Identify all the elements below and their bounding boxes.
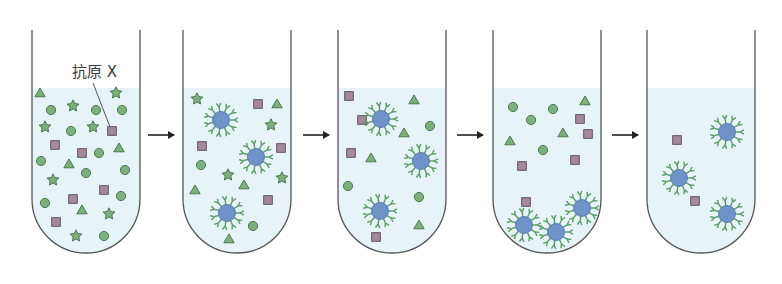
circle-molecule xyxy=(94,148,103,157)
antibody-arm xyxy=(547,218,548,222)
antigen-x-molecule xyxy=(254,100,263,109)
bead-core xyxy=(413,153,430,170)
circle-molecule xyxy=(120,165,129,174)
test-tube-3 xyxy=(338,30,446,253)
bead-core xyxy=(248,149,265,166)
antigen-x-molecule xyxy=(584,130,593,139)
antigen-x-molecule xyxy=(518,162,527,171)
bead-core xyxy=(516,217,533,234)
antibody-arm xyxy=(372,105,373,109)
circle-molecule xyxy=(343,181,352,190)
circle-molecule xyxy=(36,156,45,165)
circle-molecule xyxy=(116,191,125,200)
test-tube-5 xyxy=(647,30,755,253)
antigen-x-molecule xyxy=(52,218,61,227)
antibody-arm xyxy=(218,199,219,203)
antigen-x-molecule xyxy=(522,198,531,207)
circle-molecule xyxy=(248,221,257,230)
circle-molecule xyxy=(425,121,434,130)
antigen-x-molecule xyxy=(673,136,682,145)
antibody-arm xyxy=(515,211,516,215)
antigen-x-molecule xyxy=(571,156,580,165)
immunoprecipitation-diagram: 抗原 X xyxy=(0,0,782,284)
circle-molecule xyxy=(66,126,75,135)
antibody-arm xyxy=(573,194,574,198)
circle-molecule xyxy=(196,160,205,169)
antibody-arm xyxy=(204,123,208,124)
antibody-arm xyxy=(239,160,243,161)
antibody-arm xyxy=(710,217,714,218)
circle-molecule xyxy=(414,192,423,201)
antibody-arm xyxy=(565,211,569,212)
bead-core xyxy=(719,124,736,141)
antigen-x-molecule xyxy=(372,233,381,242)
tubes-layer xyxy=(32,30,755,253)
antigen-x-label: 抗原 X xyxy=(72,63,117,81)
antibody-arm xyxy=(710,135,714,136)
antigen-x-molecule xyxy=(345,92,354,101)
antibody-arm xyxy=(404,164,408,165)
circle-molecule xyxy=(46,105,55,114)
test-tube-2 xyxy=(183,30,291,253)
antibody-arm xyxy=(364,122,368,123)
antigen-x-molecule xyxy=(100,186,109,195)
bead-core xyxy=(219,205,236,222)
antibody-arm xyxy=(670,164,671,168)
antigen-x-molecule xyxy=(198,142,207,151)
circle-molecule xyxy=(508,102,517,111)
antibody-arm xyxy=(507,228,511,229)
antigen-x-molecule xyxy=(78,149,87,158)
antigen-x-molecule xyxy=(108,127,117,136)
antibody-arm xyxy=(210,216,214,217)
liquid xyxy=(647,88,755,253)
liquid xyxy=(183,88,291,253)
circle-molecule xyxy=(117,105,126,114)
circle-molecule xyxy=(526,115,535,124)
circle-molecule xyxy=(548,104,557,113)
bead-core xyxy=(671,170,688,187)
bead-core xyxy=(213,112,230,129)
bead-core xyxy=(548,224,565,241)
antigen-x-molecule xyxy=(358,116,367,125)
bead-core xyxy=(372,203,389,220)
bead-core xyxy=(574,200,591,217)
antibody-arm xyxy=(718,118,719,122)
antibody-arm xyxy=(718,200,719,204)
antigen-x-molecule xyxy=(51,141,60,150)
circle-molecule xyxy=(81,168,90,177)
antigen-x-molecule xyxy=(264,196,273,205)
antigen-x-molecule xyxy=(69,195,78,204)
bead-core xyxy=(373,111,390,128)
antigen-x-molecule xyxy=(576,115,585,124)
antibody-arm xyxy=(363,214,367,215)
antigen-x-molecule xyxy=(691,197,700,206)
antibody-arm xyxy=(212,106,213,110)
antibody-arm xyxy=(412,147,413,151)
antibody-arm xyxy=(662,181,666,182)
circle-molecule xyxy=(91,105,100,114)
antigen-x-molecule xyxy=(347,149,356,158)
circle-molecule xyxy=(538,145,547,154)
test-tube-4 xyxy=(493,30,601,253)
antibody-arm xyxy=(539,235,543,236)
antigen-x-molecule xyxy=(277,144,286,153)
antibody-arm xyxy=(371,197,372,201)
circle-molecule xyxy=(99,231,108,240)
antibody-arm xyxy=(247,143,248,147)
circle-molecule xyxy=(40,198,49,207)
bead-core xyxy=(719,206,736,223)
